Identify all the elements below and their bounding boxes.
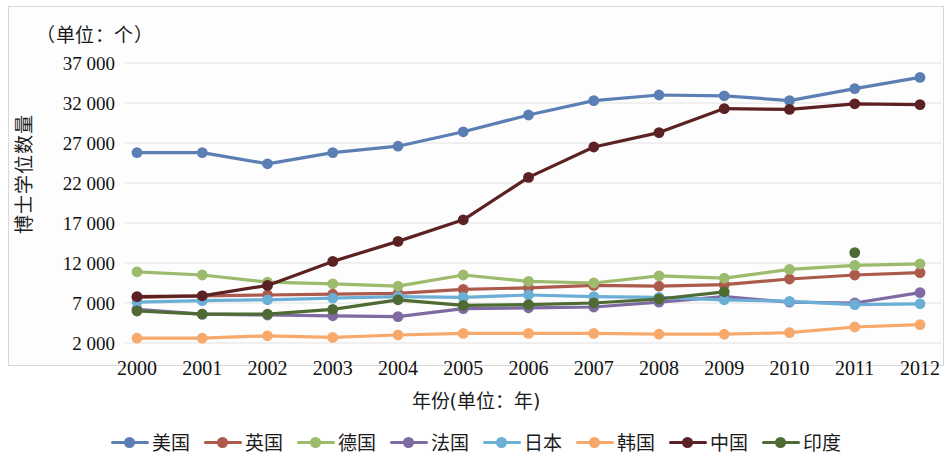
data-point (327, 278, 338, 289)
x-axis-tick-label: 2005 (443, 357, 483, 379)
data-point (719, 329, 730, 340)
data-point (915, 258, 926, 269)
data-point (197, 147, 208, 158)
y-axis-title: 博士学位数量 (9, 64, 36, 284)
legend-label: 英国 (245, 428, 283, 455)
y-axis-tick-label: 22 000 (63, 173, 115, 194)
x-axis-tick-label: 2009 (704, 357, 744, 379)
data-point (849, 83, 860, 94)
series-韩国 (132, 319, 926, 343)
legend-marker-icon (483, 435, 521, 449)
x-axis-tick-label: 2003 (313, 357, 353, 379)
x-axis-tick-label: 2001 (182, 357, 222, 379)
data-point (588, 95, 599, 106)
x-axis-tick-label: 2008 (639, 357, 679, 379)
data-point (719, 286, 730, 297)
data-point (915, 319, 926, 330)
data-point (393, 294, 404, 305)
data-point (197, 290, 208, 301)
data-point (719, 273, 730, 284)
data-point (784, 296, 795, 307)
x-axis-tick-label: 2007 (574, 357, 614, 379)
y-axis-tick-label: 32 000 (63, 93, 115, 114)
data-point (719, 103, 730, 114)
legend-item-印度[interactable]: 印度 (762, 428, 841, 455)
data-point (523, 290, 534, 301)
data-point (784, 264, 795, 275)
data-point (849, 270, 860, 281)
legend-label: 中国 (710, 428, 748, 455)
legend-label: 韩国 (617, 428, 655, 455)
data-point (132, 147, 143, 158)
data-point (262, 294, 273, 305)
data-point (132, 333, 143, 344)
data-point (588, 328, 599, 339)
data-point (327, 147, 338, 158)
data-point (197, 270, 208, 281)
data-point (458, 270, 469, 281)
legend-label: 美国 (152, 428, 190, 455)
series-line (137, 77, 920, 163)
data-point (719, 90, 730, 101)
y-axis-tick-label: 17 000 (63, 213, 115, 234)
y-axis-tick-label: 12 000 (63, 253, 115, 274)
legend-marker-icon (669, 435, 707, 449)
legend-marker-icon (297, 435, 335, 449)
legend-marker-icon (762, 435, 800, 449)
data-point (654, 281, 665, 292)
legend-label: 印度 (803, 428, 841, 455)
data-point (327, 293, 338, 304)
data-point (849, 260, 860, 271)
legend-item-中国[interactable]: 中国 (669, 428, 748, 455)
data-point (784, 274, 795, 285)
data-point (849, 299, 860, 310)
legend-marker-icon (576, 435, 614, 449)
y-axis-tick-label: 27 000 (63, 133, 115, 154)
x-axis-tick-label: 2004 (378, 357, 418, 379)
data-point (588, 142, 599, 153)
data-point (588, 278, 599, 289)
data-point (327, 304, 338, 315)
data-point (327, 256, 338, 267)
x-axis-tick-label: 2012 (900, 357, 940, 379)
legend-item-韩国[interactable]: 韩国 (576, 428, 655, 455)
data-point (523, 172, 534, 183)
data-point (327, 332, 338, 343)
legend-marker-icon (111, 435, 149, 449)
legend-item-日本[interactable]: 日本 (483, 428, 562, 455)
y-axis-tick-label: 2 000 (72, 333, 115, 354)
data-point (654, 329, 665, 340)
data-point (654, 127, 665, 138)
data-point (784, 104, 795, 115)
line-chart: 2 0007 00012 00017 00022 00027 00032 000… (0, 0, 952, 420)
data-point (523, 110, 534, 121)
data-point (262, 158, 273, 169)
series-美国 (132, 72, 926, 169)
data-point (654, 294, 665, 305)
legend-item-美国[interactable]: 美国 (111, 428, 190, 455)
data-point (849, 98, 860, 109)
x-axis-title: 年份(单位：年) (0, 386, 952, 413)
x-axis-tick-label: 2010 (770, 357, 810, 379)
legend-item-德国[interactable]: 德国 (297, 428, 376, 455)
chart-page: （单位：个） 2 0007 00012 00017 00022 00027 00… (0, 0, 952, 472)
data-point (915, 298, 926, 309)
data-point (458, 126, 469, 137)
data-point (458, 328, 469, 339)
y-axis-tick-label: 37 000 (63, 53, 115, 74)
data-point (197, 333, 208, 344)
data-point (915, 72, 926, 83)
legend-label: 法国 (431, 428, 469, 455)
data-point (132, 266, 143, 277)
data-point (458, 214, 469, 225)
y-axis-tick-label: 7 000 (72, 293, 115, 314)
series-中国 (132, 98, 926, 302)
data-point (393, 281, 404, 292)
data-point (654, 270, 665, 281)
data-point (784, 327, 795, 338)
x-axis-tick-label: 2011 (835, 357, 874, 379)
data-point (523, 276, 534, 287)
legend-item-英国[interactable]: 英国 (204, 428, 283, 455)
data-point (393, 236, 404, 247)
legend-item-法国[interactable]: 法国 (390, 428, 469, 455)
